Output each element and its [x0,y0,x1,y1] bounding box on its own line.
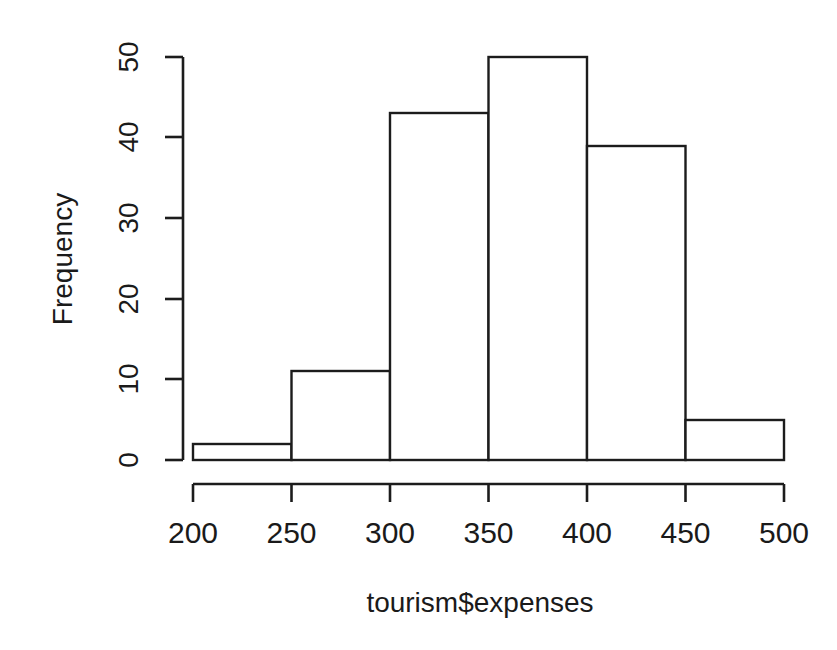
histogram-bar-250-300 [292,371,391,460]
histogram-bar-200-250 [193,444,292,460]
histogram-bar-450-500 [686,420,785,460]
histogram-bar-300-350 [390,113,489,460]
histogram-bar-350-400 [489,57,588,460]
x-tick-label-250: 250 [266,516,316,549]
x-tick-label-300: 300 [365,516,415,549]
y-tick-label-50: 50 [113,41,144,72]
x-axis-title: tourism$expenses [366,587,593,618]
y-tick-label-40: 40 [113,121,144,152]
y-axis-title: Frequency [47,193,78,325]
histogram-bar-400-450 [587,146,686,460]
y-tick-label-0: 0 [113,452,144,468]
bars-group [193,57,784,460]
y-tick-label-20: 20 [113,283,144,314]
histogram-plot-container: 0 10 20 30 40 50 [0,0,837,650]
x-tick-label-450: 450 [660,516,710,549]
x-axis-group: 200 250 300 350 400 450 500 [168,484,809,549]
x-tick-label-500: 500 [759,516,809,549]
x-tick-label-200: 200 [168,516,218,549]
histogram-chart: 0 10 20 30 40 50 [0,0,837,650]
y-tick-label-10: 10 [113,363,144,394]
y-axis-group: 0 10 20 30 40 50 [113,41,184,467]
y-tick-label-30: 30 [113,202,144,233]
x-tick-label-350: 350 [463,516,513,549]
x-tick-label-400: 400 [562,516,612,549]
